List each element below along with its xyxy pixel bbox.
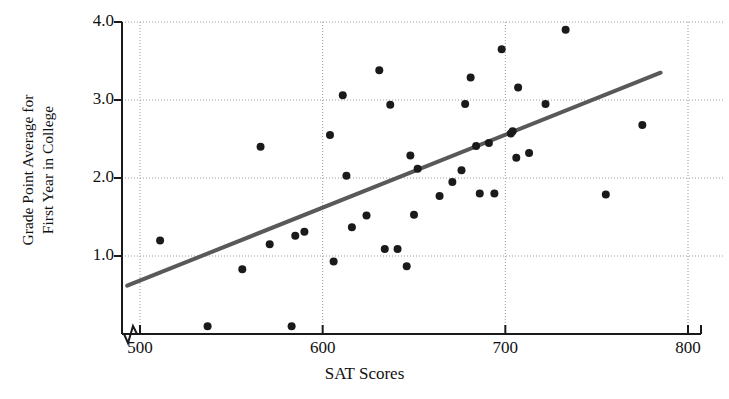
y-axis-title-line-1: Grade Point Average for <box>18 40 38 300</box>
y-tick-label: 1.0 <box>74 245 114 265</box>
y-axis-title: Grade Point Average for First Year in Co… <box>18 40 58 300</box>
scatter-plot-figure: Grade Point Average for First Year in Co… <box>0 0 729 399</box>
x-axis-title: SAT Scores <box>0 364 729 384</box>
gridlines <box>122 22 723 334</box>
y-tick-label: 4.0 <box>74 11 114 31</box>
y-tick-label: 2.0 <box>74 167 114 187</box>
y-axis-title-line-2: First Year in College <box>38 40 58 300</box>
x-tick-label: 600 <box>293 338 353 358</box>
x-tick-label: 700 <box>475 338 535 358</box>
x-tick-label: 800 <box>658 338 718 358</box>
y-tick-label: 3.0 <box>74 89 114 109</box>
x-tick-label: 500 <box>110 338 170 358</box>
axes-frame <box>114 22 701 343</box>
